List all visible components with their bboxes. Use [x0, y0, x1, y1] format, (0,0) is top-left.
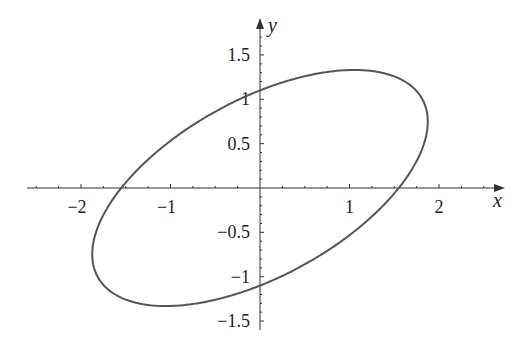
x-axis-label: x: [492, 189, 502, 211]
x-axis-tick-labels: −2−112: [67, 197, 443, 217]
x-tick-label: 2: [435, 197, 444, 217]
y-tick-label: 0.5: [228, 134, 251, 154]
y-axis-arrow-icon: [256, 18, 264, 29]
y-tick-label: −0.5: [217, 222, 250, 242]
y-axis-minor-ticks: [260, 37, 264, 321]
x-tick-label: −2: [67, 197, 86, 217]
y-tick-label: −1: [231, 267, 250, 287]
chart-plot-area: −2−112 1.510.5−0.5−1−1.5 x y: [0, 0, 529, 345]
x-tick-label: −1: [157, 197, 176, 217]
x-tick-label: 1: [345, 197, 354, 217]
y-tick-label: 1: [241, 89, 250, 109]
chart-svg: −2−112 1.510.5−0.5−1−1.5 x y: [0, 0, 529, 345]
y-tick-label: −1.5: [217, 311, 250, 331]
y-axis-label: y: [266, 14, 277, 37]
y-tick-label: 1.5: [228, 45, 251, 65]
